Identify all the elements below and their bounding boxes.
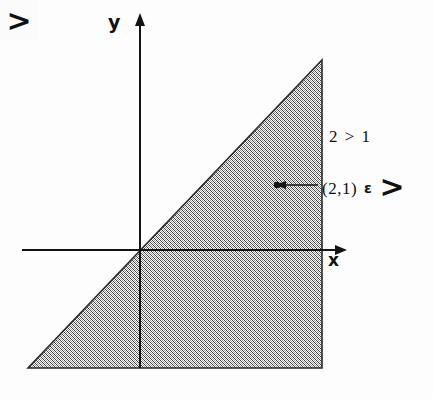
math-figure: y x 2 > 1 (2,1) ε > >: [0, 0, 433, 399]
element-of-icon: ε: [361, 181, 372, 195]
point-marker: [274, 182, 280, 188]
y-axis-arrowhead: [135, 13, 145, 26]
membership-annotation: (2,1) ε >: [322, 173, 405, 203]
membership-point-label: (2,1): [322, 180, 357, 197]
x-axis-label: x: [328, 252, 339, 269]
relation-annotation: 2 > 1: [329, 128, 372, 145]
shaded-region-group: [28, 60, 322, 368]
y-axis-label: y: [108, 13, 120, 32]
set-name-symbol: >: [376, 172, 405, 202]
shaded-triangle-region: [28, 60, 322, 368]
